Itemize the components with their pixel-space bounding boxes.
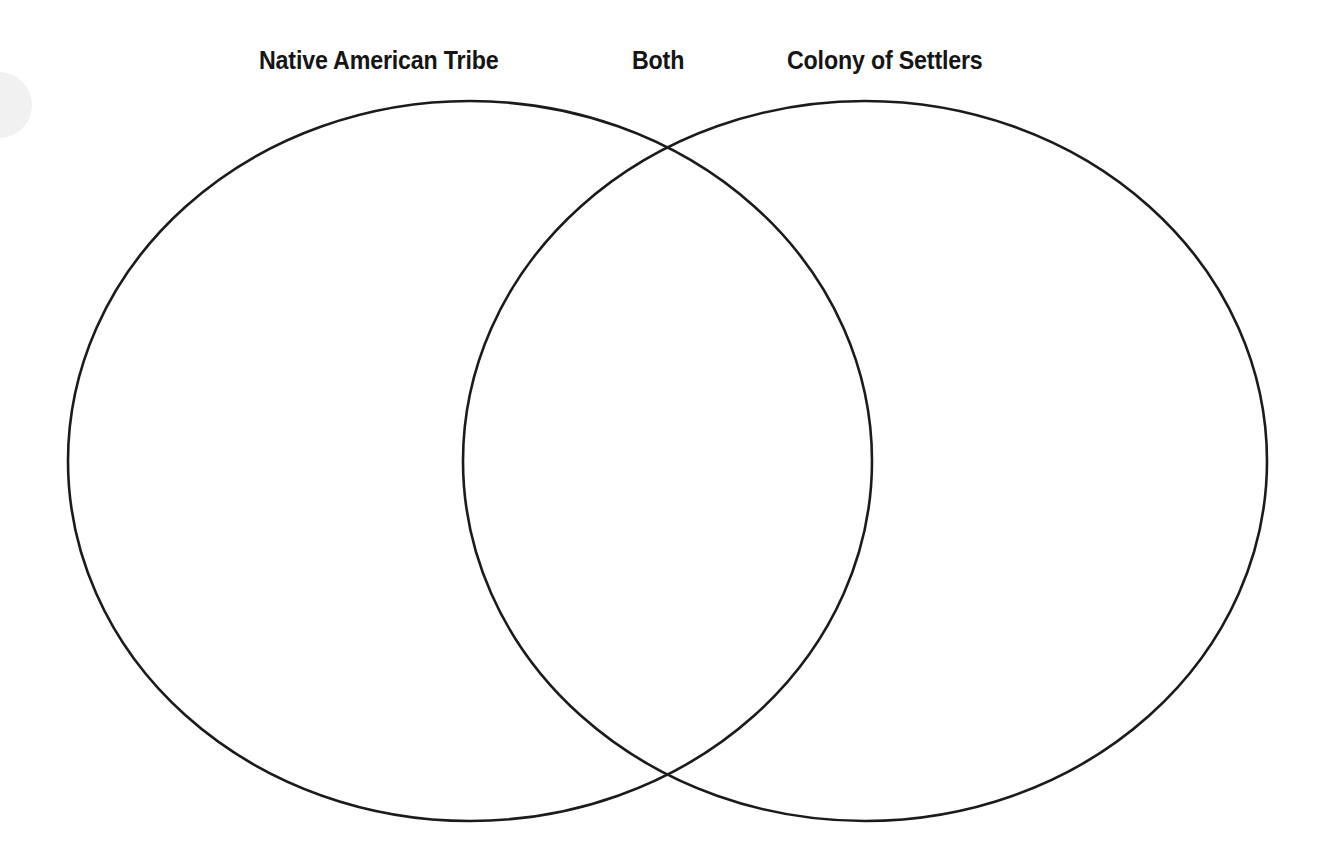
venn-region-left-only[interactable] bbox=[150, 191, 450, 731]
venn-region-right-only[interactable] bbox=[885, 191, 1185, 731]
venn-region-intersection[interactable] bbox=[572, 191, 762, 731]
venn-diagram bbox=[0, 0, 1325, 858]
worksheet-page: Native American Tribe Both Colony of Set… bbox=[0, 0, 1325, 858]
